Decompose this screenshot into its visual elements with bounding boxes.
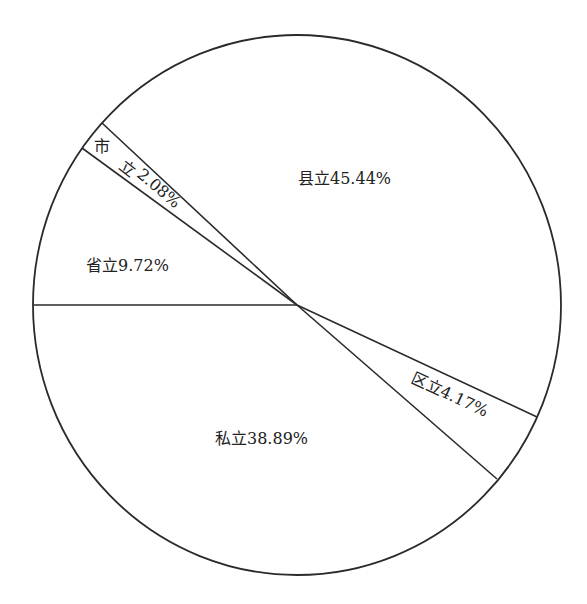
slice-label-shili-char1: 市: [94, 137, 110, 156]
slice-label-xianli: 县立45.44%: [298, 169, 391, 188]
slice-label-sili: 私立38.89%: [215, 429, 308, 448]
slice-label-shengli: 省立9.72%: [86, 256, 169, 275]
pie-chart: 县立45.44% 省立9.72% 私立38.89% 市 立 2.08% 区立4.…: [0, 0, 587, 604]
